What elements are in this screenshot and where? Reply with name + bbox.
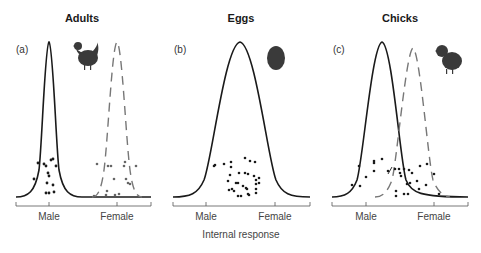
x-axis-label: Internal response <box>161 229 321 240</box>
hen-icon <box>73 42 98 70</box>
panel-label-b: (b) <box>174 44 186 55</box>
chick-icon <box>435 45 462 74</box>
panel-title-chicks: Chicks <box>360 12 440 24</box>
x-axis <box>16 202 151 206</box>
panel-adults <box>16 42 151 206</box>
tick-label-male-c: Male <box>341 211 391 222</box>
panel-label-a: (a) <box>16 44 28 55</box>
egg-dots <box>213 157 261 198</box>
panel-eggs <box>173 42 310 206</box>
tick-label-male-b: Male <box>181 211 231 222</box>
combined-curve <box>173 42 310 197</box>
x-axis <box>332 202 468 206</box>
female-curve <box>375 48 450 197</box>
tick-label-male-a: Male <box>24 211 74 222</box>
tick-label-female-a: Female <box>92 211 142 222</box>
x-axis <box>173 202 310 206</box>
panel-label-c: (c) <box>333 44 345 55</box>
panel-title-adults: Adults <box>42 12 122 24</box>
panel-chicks <box>332 42 468 206</box>
egg-icon <box>267 46 285 70</box>
panel-title-eggs: Eggs <box>201 12 281 24</box>
female-curve <box>92 42 142 197</box>
chick-dots <box>351 158 441 198</box>
tick-label-female-b: Female <box>250 211 300 222</box>
female-dots <box>93 161 138 198</box>
tick-label-female-c: Female <box>409 211 459 222</box>
male-dots <box>33 158 58 195</box>
